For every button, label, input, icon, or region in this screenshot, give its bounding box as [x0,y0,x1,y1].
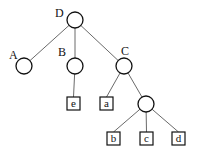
node-label: D [55,6,64,20]
leaf-label: e [71,97,76,109]
node-circle [16,58,32,74]
node-label: C [121,44,129,58]
tree-node-B: B [58,45,83,74]
node-label: A [9,48,18,62]
leaf-node-b: b [107,132,120,145]
tree-node-D: D [55,6,83,28]
leaf-label: d [176,132,182,144]
edge-B-e [74,74,75,97]
node-label: B [58,45,66,59]
leaf-node-a: a [100,97,113,110]
node-circle [67,58,83,74]
edge-n1-d [152,109,178,132]
leaf-node-d: d [172,132,185,145]
tree-node-C: C [116,44,132,74]
node-circle [67,12,83,28]
node-circle [116,58,132,74]
edges [30,25,179,132]
nodes: DABCeabcd [9,6,185,145]
edge-C-a [107,73,121,97]
leaf-label: b [111,132,117,144]
tree-node-A: A [9,48,32,74]
edge-D-C [81,25,118,60]
leaf-label: a [104,97,109,109]
node-circle [138,96,154,112]
tree-diagram: DABCeabcd [0,0,200,158]
leaf-node-e: e [67,97,80,110]
edge-n1-b [114,109,140,132]
leaf-label: c [144,132,149,144]
leaf-node-c: c [140,132,153,145]
edge-C-n1 [128,73,142,97]
tree-node-n1 [138,96,154,112]
